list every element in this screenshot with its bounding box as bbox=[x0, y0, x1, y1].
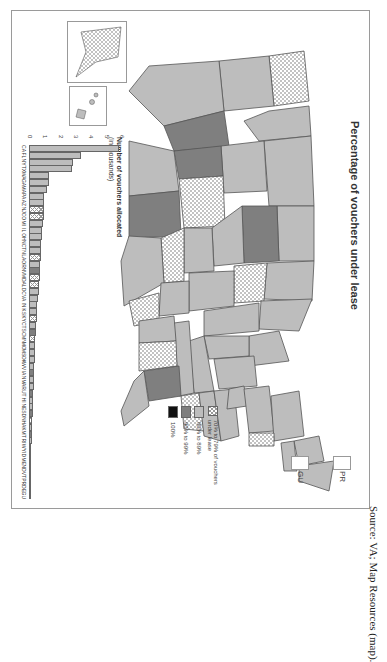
legend-swatch-black bbox=[168, 406, 178, 418]
state-mn bbox=[264, 261, 314, 301]
bar-series: 0123456CAFLNYTXWAGAMAPAAZNJCOMIILOHNCTNL… bbox=[17, 19, 137, 499]
y-tick: 3 bbox=[73, 135, 79, 138]
state-mo bbox=[189, 271, 234, 311]
state-ut bbox=[174, 146, 223, 179]
us-choropleth-map bbox=[119, 31, 339, 501]
state-nd bbox=[277, 206, 314, 261]
state-oh bbox=[214, 356, 257, 389]
legend-item-90: 90% to 99% bbox=[181, 406, 191, 496]
legend-item-100: 100% bbox=[168, 406, 178, 496]
source-caption: Source: VA; Map Resources (map). bbox=[368, 506, 380, 662]
bar-label: GU bbox=[21, 491, 27, 500]
state-mt bbox=[264, 136, 314, 206]
state-wi bbox=[259, 299, 312, 331]
state-ga bbox=[144, 366, 181, 401]
map-title: Percentage of vouchers under lease bbox=[349, 121, 361, 310]
state-mi bbox=[249, 331, 289, 366]
legend-item-80: 80% to 89% bbox=[194, 406, 204, 496]
y-tick: 5 bbox=[104, 135, 110, 138]
state-wy bbox=[221, 141, 267, 193]
state-id bbox=[244, 106, 311, 141]
legend-swatch-dark-gray bbox=[181, 406, 191, 418]
state-ny bbox=[271, 391, 304, 441]
territory-gu-box bbox=[291, 456, 309, 470]
source-caption-wrap: Source: VA; Map Resources (map). bbox=[366, 506, 386, 584]
y-tick: 1 bbox=[42, 135, 48, 138]
state-ok bbox=[161, 228, 184, 283]
y-tick: 4 bbox=[88, 135, 94, 138]
territory-gu-label: GU bbox=[296, 471, 305, 483]
figure-frame: Percentage of vouchers under lease bbox=[11, 10, 370, 509]
legend-swatch-crosshatch bbox=[208, 406, 218, 416]
rotated-figure: Percentage of vouchers under lease bbox=[12, 11, 369, 508]
state-ks bbox=[184, 228, 214, 273]
legend-item-70: 70% to 79% of vouchers under lease bbox=[207, 406, 219, 496]
territory-pr-box bbox=[333, 456, 351, 470]
territory-pr-label: PR bbox=[338, 471, 347, 482]
state-wa bbox=[269, 51, 309, 106]
map-legend: 70% to 79% of vouchers under lease 80% t… bbox=[165, 406, 219, 496]
vouchers-bar-chart: Number of vouchers allocated (in thousan… bbox=[17, 19, 137, 499]
y-tick: 6 bbox=[119, 135, 125, 138]
state-co bbox=[179, 176, 225, 228]
bar-gu bbox=[29, 492, 31, 499]
state-or bbox=[219, 56, 274, 111]
legend-swatch-light-gray bbox=[194, 406, 204, 418]
y-tick: 0 bbox=[27, 135, 33, 138]
state-nj bbox=[249, 433, 274, 446]
state-al bbox=[139, 341, 177, 371]
state-pa bbox=[244, 386, 274, 433]
y-tick: 2 bbox=[58, 135, 64, 138]
state-ar bbox=[159, 281, 189, 316]
state-ia bbox=[234, 263, 267, 303]
state-sd bbox=[242, 206, 279, 263]
state-ms bbox=[139, 316, 176, 343]
state-in bbox=[204, 336, 249, 359]
